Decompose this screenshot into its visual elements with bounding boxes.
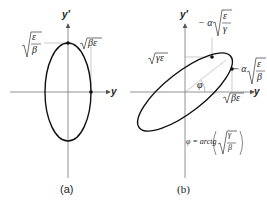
panel-b: [127, 10, 266, 178]
point-right-a: [89, 90, 93, 94]
y-prime-label-a: y′: [62, 9, 70, 20]
point-top-a: [66, 41, 70, 45]
right-point-prefix: − α: [232, 63, 247, 74]
eps-num-a: ε: [32, 31, 36, 42]
formula-den: β: [228, 143, 232, 152]
right-point-num: ε: [257, 58, 261, 69]
beta-den-a: β: [32, 44, 37, 55]
beta-eps-a: βε: [88, 37, 97, 48]
point-top-b: [210, 55, 214, 59]
y-label-a: y: [111, 86, 117, 97]
y-prime-label-b: y′: [180, 9, 188, 20]
right-point-den: β: [257, 71, 262, 82]
gamma-eps-label: γε: [156, 52, 164, 63]
caption-b: (b): [177, 183, 190, 195]
caption-a: (a): [60, 183, 73, 195]
top-point-prefix: − α: [198, 17, 213, 28]
beta-eps-b: βε: [231, 92, 240, 103]
top-point-den: γ: [223, 23, 227, 34]
formula-prefix: φ = arctg: [186, 137, 216, 146]
top-point-num: ε: [223, 10, 227, 21]
phi-angle-label: φ: [197, 79, 203, 90]
formula-num: γ: [228, 130, 231, 139]
y-label-b: y: [254, 86, 260, 97]
